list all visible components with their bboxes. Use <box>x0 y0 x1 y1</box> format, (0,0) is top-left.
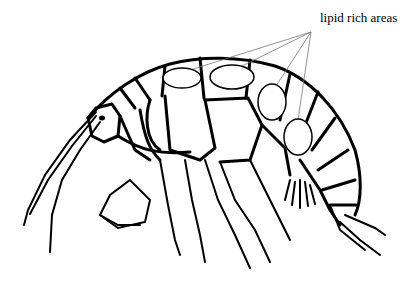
lipid-area-2 <box>210 65 254 89</box>
annotation-label: lipid rich areas <box>320 10 397 26</box>
lipid-area-4 <box>284 119 312 155</box>
appendages <box>24 112 385 268</box>
amphipod-illustration <box>0 0 416 294</box>
amphipod-diagram: lipid rich areas <box>0 0 416 294</box>
lipid-area-1 <box>163 68 201 88</box>
eye <box>99 116 105 121</box>
lipid-area-3 <box>258 84 286 120</box>
